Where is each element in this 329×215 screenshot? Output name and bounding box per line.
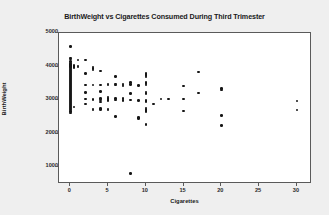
scatter-point xyxy=(73,66,76,69)
scatter-point xyxy=(129,92,132,95)
scatter-point xyxy=(220,124,223,127)
scatter-point xyxy=(77,66,80,69)
scatter-point xyxy=(107,99,110,102)
scatter-point xyxy=(145,84,148,87)
scatter-point xyxy=(114,99,117,102)
x-axis: 051015202530 xyxy=(58,183,311,197)
scatter-point xyxy=(220,89,223,92)
scatter-point xyxy=(137,84,140,87)
scatter-point xyxy=(145,110,148,113)
scatter-point xyxy=(129,83,132,86)
scatter-point xyxy=(182,98,185,101)
scatter-point xyxy=(92,69,95,72)
x-tick-label: 10 xyxy=(135,188,155,194)
scatter-point xyxy=(84,72,87,75)
scatter-point xyxy=(182,85,185,88)
scatter-point xyxy=(114,75,117,78)
scatter-point xyxy=(152,103,155,106)
x-tick-label: 20 xyxy=(210,188,230,194)
y-axis: 10002000300040005000 xyxy=(28,32,58,183)
y-axis-label: BirthWeight xyxy=(1,83,7,116)
scatter-point xyxy=(107,84,110,87)
x-tick-label: 0 xyxy=(59,188,79,194)
x-tick-label: 25 xyxy=(248,188,268,194)
scatter-point xyxy=(92,109,95,112)
scatter-point xyxy=(107,109,110,112)
scatter-point xyxy=(137,99,140,102)
scatter-point xyxy=(73,106,76,109)
x-tick-mark xyxy=(107,183,108,186)
scatter-point xyxy=(99,90,102,93)
scatter-point xyxy=(167,98,170,101)
scatter-point xyxy=(92,84,95,87)
scatter-point xyxy=(84,91,87,94)
scatter-point xyxy=(129,172,132,175)
scatter-point xyxy=(145,100,148,103)
scatter-point xyxy=(160,98,163,101)
scatter-point xyxy=(99,70,102,73)
scatter-point xyxy=(122,85,125,88)
scatter-point xyxy=(69,112,72,115)
x-tick-label: 15 xyxy=(173,188,193,194)
scatter-point xyxy=(296,109,299,112)
scatter-point xyxy=(84,84,87,87)
scatter-point xyxy=(114,84,117,87)
scatter-points-layer xyxy=(59,33,310,182)
scatter-point xyxy=(122,99,125,102)
x-tick-mark xyxy=(258,183,259,186)
scatter-point xyxy=(129,99,132,102)
x-tick-mark xyxy=(220,183,221,186)
x-tick-label: 5 xyxy=(97,188,117,194)
scatter-point xyxy=(92,98,95,101)
scatter-point xyxy=(145,76,148,79)
scatter-point xyxy=(296,100,299,103)
x-tick-mark xyxy=(183,183,184,186)
scatter-point xyxy=(197,71,200,74)
scatter-point xyxy=(84,59,87,62)
scatter-point xyxy=(220,114,223,117)
scatter-point xyxy=(99,108,102,111)
x-tick-mark xyxy=(69,183,70,186)
scatter-point xyxy=(99,84,102,87)
x-tick-label: 30 xyxy=(286,188,306,194)
scatter-point xyxy=(182,110,185,113)
scatter-point xyxy=(137,117,140,120)
x-tick-mark xyxy=(296,183,297,186)
plot-area xyxy=(58,32,311,183)
scatter-point xyxy=(99,101,102,104)
scatter-point xyxy=(69,45,72,48)
scatter-point xyxy=(84,98,87,101)
chart-screenshot: BirthWeight vs Cigarettes Consumed Durin… xyxy=(0,0,329,215)
scatter-point xyxy=(84,103,87,106)
x-axis-label: Cigarettes xyxy=(58,198,311,204)
scatter-point xyxy=(197,92,200,95)
scatter-point xyxy=(145,123,148,126)
x-tick-mark xyxy=(145,183,146,186)
scatter-point xyxy=(77,59,80,62)
scatter-point xyxy=(114,115,117,118)
scatter-point xyxy=(145,92,148,95)
chart-title: BirthWeight vs Cigarettes Consumed Durin… xyxy=(0,12,329,21)
